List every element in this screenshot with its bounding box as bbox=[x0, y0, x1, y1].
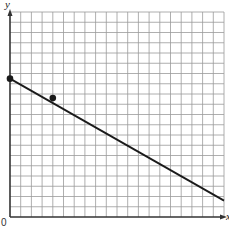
data-point bbox=[50, 95, 57, 102]
x-axis-label: x bbox=[226, 210, 229, 222]
coordinate-grid-chart bbox=[0, 0, 229, 227]
data-point bbox=[7, 75, 14, 82]
origin-label: 0 bbox=[1, 217, 7, 227]
y-axis-label: y bbox=[5, 0, 10, 10]
grid-lines bbox=[10, 12, 224, 217]
y-axis-arrow-icon bbox=[8, 9, 13, 16]
